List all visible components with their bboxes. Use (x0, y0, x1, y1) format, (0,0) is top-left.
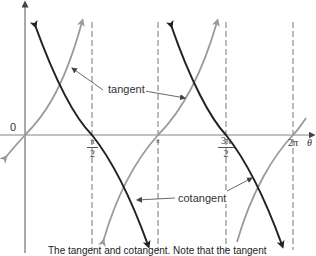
tick-label-3pi-over-2: 3π 2 (218, 136, 234, 159)
tangent-curve (5, 22, 306, 242)
tangent-leader-left (72, 68, 103, 90)
tangent-branch-1 (5, 22, 82, 158)
tick-label-2pi: 2π (288, 138, 298, 148)
origin-label: 0 (10, 122, 16, 133)
tangent-branch-2 (103, 22, 217, 242)
tangent-annotation: tangent (107, 84, 146, 95)
tick-numerator: π (87, 138, 98, 146)
tick-numerator: 3π (218, 136, 234, 146)
tick-denominator: 2 (87, 149, 98, 159)
cotangent-leader-right (227, 178, 252, 191)
theta-axis-label: θ (307, 138, 312, 148)
tick-denominator: 2 (218, 149, 234, 159)
cotangent-annotation: cotangent (177, 193, 227, 204)
tick-label-pi: π (156, 138, 160, 145)
tangent-leader-right (145, 91, 185, 98)
cotangent-leader-left (137, 198, 175, 200)
asymptote-lines (92, 22, 293, 250)
tick-label-pi-over-2: π 2 (87, 138, 98, 159)
figure-caption: The tangent and cotangent. Note that the… (48, 245, 267, 256)
